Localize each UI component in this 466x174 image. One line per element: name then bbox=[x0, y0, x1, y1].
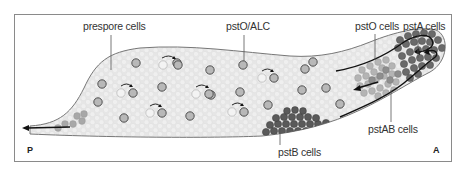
label-pstab-cells: pstAB cells bbox=[368, 123, 418, 135]
label-psta-cells: pstA cells bbox=[403, 20, 445, 32]
slug-body bbox=[30, 29, 445, 138]
label-prespore-cells: prespore cells bbox=[83, 20, 146, 32]
anterior-marker: A bbox=[433, 145, 440, 155]
posterior-marker: P bbox=[27, 145, 33, 155]
label-psto-cells: pstO cells bbox=[355, 20, 399, 32]
label-psto-alc: pstO/ALC bbox=[226, 20, 270, 32]
label-pstb-cells: pstB cells bbox=[278, 146, 321, 158]
posterior-arrow bbox=[27, 127, 70, 128]
